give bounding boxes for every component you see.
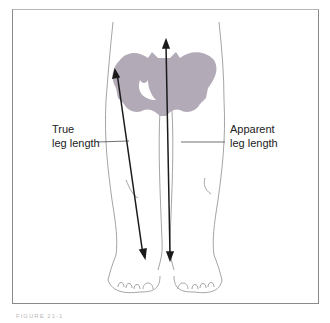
true-label-line2: leg length	[52, 136, 100, 150]
apparent-label-line1: Apparent	[230, 122, 278, 136]
apparent-label-line2: leg length	[230, 136, 278, 150]
leg-length-diagram	[0, 0, 330, 323]
apparent-leg-length-label: Apparent leg length	[230, 122, 278, 150]
true-leg-length-label: True leg length	[52, 122, 100, 150]
true-leader-line	[97, 141, 129, 142]
figure-caption: FIGURE 21-1	[16, 313, 63, 319]
pelvis-shape	[113, 52, 217, 116]
true-label-line1: True	[52, 122, 100, 136]
